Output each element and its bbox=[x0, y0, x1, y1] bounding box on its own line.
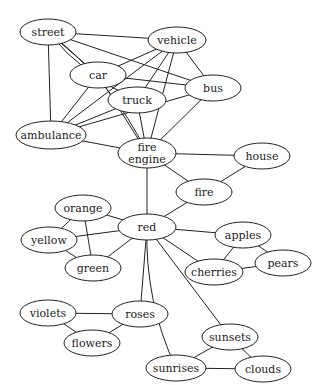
node-label: green bbox=[77, 262, 109, 275]
node-pears[interactable]: pears bbox=[255, 250, 311, 276]
node-car[interactable]: car bbox=[70, 62, 126, 88]
node-orange[interactable]: orange bbox=[55, 195, 111, 221]
edge-street-ambulance bbox=[48, 32, 51, 135]
node-label: fire bbox=[194, 186, 213, 199]
node-label: street bbox=[32, 26, 65, 39]
node-label: car bbox=[89, 69, 108, 82]
node-label: violets bbox=[29, 307, 67, 320]
node-label: truck bbox=[122, 94, 152, 107]
node-label: roses bbox=[125, 308, 155, 321]
node-roses[interactable]: roses bbox=[112, 301, 168, 327]
edge-red-sunrises bbox=[147, 227, 176, 368]
node-label: cherries bbox=[191, 266, 237, 279]
node-label: bus bbox=[203, 82, 223, 95]
node-label: orange bbox=[63, 202, 102, 215]
node-bus[interactable]: bus bbox=[185, 75, 241, 101]
word-association-graph: streetvehiclecarbustruckambulancefireeng… bbox=[0, 0, 321, 385]
node-sunrises[interactable]: sunrises bbox=[146, 355, 206, 381]
node-label: house bbox=[246, 150, 279, 163]
node-house[interactable]: house bbox=[234, 143, 290, 169]
node-label: sunsets bbox=[209, 331, 251, 344]
node-label: flowers bbox=[72, 337, 113, 350]
node-apples[interactable]: apples bbox=[215, 222, 271, 248]
node-label: ambulance bbox=[21, 129, 82, 142]
node-green[interactable]: green bbox=[65, 255, 121, 281]
node-cherries[interactable]: cherries bbox=[185, 259, 243, 285]
node-label: pears bbox=[267, 257, 298, 270]
node-ambulance[interactable]: ambulance bbox=[16, 121, 86, 149]
node-label: clouds bbox=[245, 363, 281, 376]
node-label: red bbox=[138, 221, 157, 234]
node-label: apples bbox=[225, 229, 262, 242]
node-truck[interactable]: truck bbox=[108, 87, 166, 113]
node-flowers[interactable]: flowers bbox=[64, 330, 120, 356]
node-label: sunrises bbox=[153, 362, 200, 375]
node-sunsets[interactable]: sunsets bbox=[202, 324, 258, 350]
node-street[interactable]: street bbox=[20, 19, 76, 45]
node-clouds[interactable]: clouds bbox=[235, 356, 291, 382]
node-fire-engine[interactable]: fireengine bbox=[118, 138, 176, 168]
node-vehicle[interactable]: vehicle bbox=[148, 27, 206, 53]
node-red[interactable]: red bbox=[118, 214, 176, 240]
node-label: vehicle bbox=[156, 34, 197, 47]
node-fire[interactable]: fire bbox=[176, 179, 232, 205]
graph-nodes: streetvehiclecarbustruckambulancefireeng… bbox=[16, 19, 311, 382]
node-violets[interactable]: violets bbox=[20, 300, 76, 326]
node-label: engine bbox=[128, 153, 166, 166]
node-yellow[interactable]: yellow bbox=[21, 227, 77, 253]
node-label: yellow bbox=[30, 234, 67, 247]
